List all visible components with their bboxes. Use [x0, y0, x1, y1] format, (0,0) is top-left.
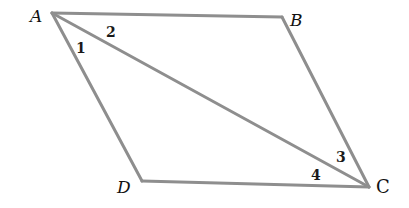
vertex-label-c: C [376, 176, 390, 197]
side-cd [142, 181, 369, 187]
angle-label-4: 4 [311, 167, 321, 183]
vertex-label-b: B [289, 10, 303, 30]
angle-label-1: 1 [76, 40, 86, 56]
angle-label-2: 2 [106, 24, 116, 40]
vertex-label-d: D [116, 177, 131, 197]
parallelogram-diagram: A B C D 1 2 3 4 [0, 0, 409, 208]
angle-label-3: 3 [336, 149, 346, 165]
side-ab [52, 13, 282, 17]
vertex-label-a: A [28, 6, 42, 26]
